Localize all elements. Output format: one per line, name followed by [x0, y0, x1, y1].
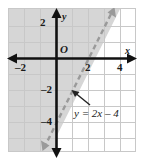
y-axis-label: y — [62, 12, 66, 22]
x-tick-label-4: 4 — [117, 62, 123, 73]
equation-label: y = 2x – 4 — [74, 108, 119, 119]
y-tick-label-neg2: –2 — [41, 84, 52, 95]
x-tick-label-neg2: –2 — [15, 62, 26, 73]
x-axis-label: x — [125, 46, 130, 56]
y-tick-label-2: 2 — [40, 17, 46, 28]
x-tick-label-2: 2 — [85, 62, 91, 73]
y-axis-arrow-down — [52, 148, 62, 158]
origin-label: O — [60, 44, 68, 55]
graph-figure: 2 –2 2 4 –2 –4 O x y y = 2x – 4 — [0, 0, 144, 165]
y-tick-label-neg4: –4 — [41, 116, 52, 127]
coordinate-plane-svg — [0, 0, 144, 165]
